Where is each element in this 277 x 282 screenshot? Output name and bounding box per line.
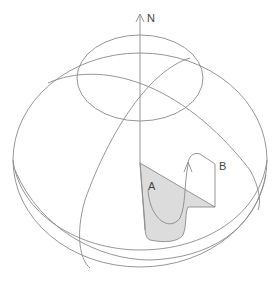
sphere-diagram: N A B bbox=[0, 0, 277, 282]
point-b-label: B bbox=[219, 160, 226, 172]
equator-back bbox=[15, 170, 266, 260]
shaded-region bbox=[140, 163, 215, 242]
point-a-label: A bbox=[148, 180, 156, 192]
north-label: N bbox=[147, 12, 155, 24]
